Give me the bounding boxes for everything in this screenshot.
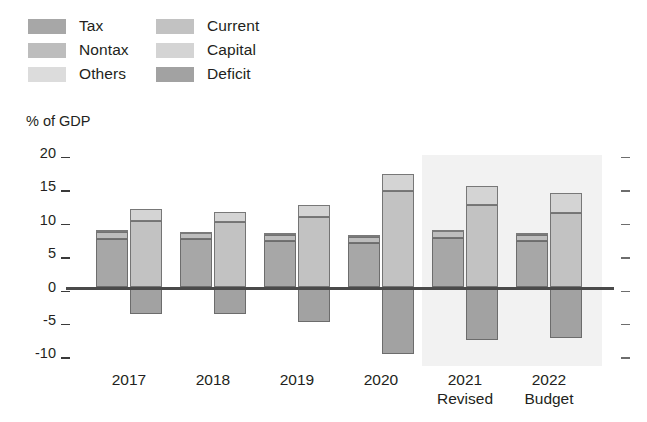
y-axis-tick-label: -10 bbox=[22, 345, 56, 361]
x-label-year: 2018 bbox=[166, 370, 260, 389]
y-axis-tick-mark-right bbox=[621, 224, 630, 226]
bar-deficit-2022 bbox=[550, 288, 582, 338]
bar-others-2017 bbox=[96, 230, 128, 232]
bar-capital-2018 bbox=[214, 212, 246, 222]
bar-nontax-2019 bbox=[264, 235, 296, 241]
bar-current-2018 bbox=[214, 222, 246, 287]
bar-nontax-2021 bbox=[432, 231, 464, 238]
y-axis-tick-label: 20 bbox=[22, 145, 56, 161]
y-axis-tick-mark bbox=[61, 190, 70, 192]
bar-current-2019 bbox=[298, 217, 330, 288]
bar-tax-2017 bbox=[96, 239, 128, 288]
bar-others-2020 bbox=[348, 235, 380, 237]
bar-deficit-2019 bbox=[298, 288, 330, 323]
bar-current-2017 bbox=[130, 221, 162, 287]
x-axis-tick-label-2021: 2021Revised bbox=[418, 370, 512, 408]
bar-deficit-2017 bbox=[130, 288, 162, 314]
x-label-sublabel: Revised bbox=[418, 389, 512, 408]
y-axis-tick-label: 15 bbox=[22, 178, 56, 194]
bar-capital-2021 bbox=[466, 186, 498, 205]
x-axis-tick-label-2020: 2020 bbox=[334, 370, 428, 389]
y-axis-tick-mark-right bbox=[621, 291, 630, 293]
x-label-year: 2022 bbox=[502, 370, 596, 389]
bar-tax-2022 bbox=[516, 241, 548, 288]
bar-others-2018 bbox=[180, 232, 212, 234]
bar-tax-2019 bbox=[264, 241, 296, 287]
bar-tax-2018 bbox=[180, 239, 212, 287]
bar-deficit-2021 bbox=[466, 288, 498, 340]
y-axis-tick-mark-right bbox=[621, 357, 630, 359]
chart-root: Tax Nontax Others Current Capital D bbox=[0, 0, 647, 422]
bar-capital-2020 bbox=[382, 174, 414, 191]
zero-baseline bbox=[66, 287, 614, 290]
bar-capital-2019 bbox=[298, 205, 330, 216]
y-axis-tick-mark bbox=[61, 257, 70, 259]
y-axis-tick-label: -5 bbox=[22, 312, 56, 328]
bar-deficit-2020 bbox=[382, 288, 414, 355]
y-axis-tick-mark-right bbox=[621, 324, 630, 326]
y-axis-tick-mark-right bbox=[621, 257, 630, 259]
x-label-year: 2019 bbox=[250, 370, 344, 389]
y-axis-tick-mark-right bbox=[621, 157, 630, 159]
bar-capital-2017 bbox=[130, 209, 162, 221]
bar-tax-2021 bbox=[432, 238, 464, 287]
bar-others-2019 bbox=[264, 233, 296, 235]
bar-tax-2020 bbox=[348, 243, 380, 287]
x-label-sublabel: Budget bbox=[502, 389, 596, 408]
bar-nontax-2022 bbox=[516, 235, 548, 241]
bar-nontax-2020 bbox=[348, 237, 380, 244]
y-axis-tick-mark bbox=[61, 157, 70, 159]
y-axis-tick-mark bbox=[61, 291, 70, 293]
y-axis-tick-mark-right bbox=[621, 190, 630, 192]
x-axis-tick-label-2018: 2018 bbox=[166, 370, 260, 389]
bar-deficit-2018 bbox=[214, 288, 246, 314]
bar-others-2021 bbox=[432, 230, 464, 232]
y-axis-tick-label: 0 bbox=[22, 279, 56, 295]
bar-current-2022 bbox=[550, 213, 582, 287]
y-axis-tick-mark bbox=[61, 224, 70, 226]
x-label-year: 2021 bbox=[418, 370, 512, 389]
plot-area: 20151050-5-1020172018201920202021Revised… bbox=[0, 0, 647, 422]
x-label-year: 2020 bbox=[334, 370, 428, 389]
bar-capital-2022 bbox=[550, 193, 582, 213]
x-axis-tick-label-2022: 2022Budget bbox=[502, 370, 596, 408]
x-axis-tick-label-2017: 2017 bbox=[82, 370, 176, 389]
bar-others-2022 bbox=[516, 233, 548, 235]
x-axis-tick-label-2019: 2019 bbox=[250, 370, 344, 389]
y-axis-tick-label: 5 bbox=[22, 245, 56, 261]
bar-current-2020 bbox=[382, 191, 414, 288]
y-axis-tick-mark bbox=[61, 357, 70, 359]
x-label-year: 2017 bbox=[82, 370, 176, 389]
bar-nontax-2018 bbox=[180, 233, 212, 239]
bar-nontax-2017 bbox=[96, 232, 128, 239]
y-axis-tick-mark bbox=[61, 324, 70, 326]
y-axis-tick-label: 10 bbox=[22, 212, 56, 228]
bar-current-2021 bbox=[466, 205, 498, 288]
